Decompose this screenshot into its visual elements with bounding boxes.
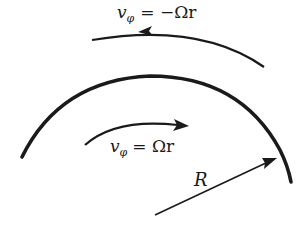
inner-velocity-symbol: v <box>110 136 120 156</box>
boundary-arc <box>22 76 291 182</box>
inner-velocity-label: vφ= Ωr <box>110 136 175 159</box>
outer-flow-arc <box>92 35 264 67</box>
radius-label: R <box>193 169 208 190</box>
outer-flow-arrow <box>92 26 264 67</box>
rotating-flow-diagram: vφ= −Ωr vφ= Ωr R <box>0 0 306 232</box>
radius-line <box>155 162 268 215</box>
outer-velocity-rhs: = −Ωr <box>140 2 197 22</box>
inner-velocity-subscript: φ <box>120 146 128 159</box>
inner-velocity-rhs: = Ωr <box>132 136 175 156</box>
outer-velocity-label: vφ= −Ωr <box>117 2 197 25</box>
outer-velocity-symbol: v <box>117 2 127 22</box>
outer-velocity-subscript: φ <box>127 12 135 25</box>
radius-arrow <box>155 158 277 215</box>
